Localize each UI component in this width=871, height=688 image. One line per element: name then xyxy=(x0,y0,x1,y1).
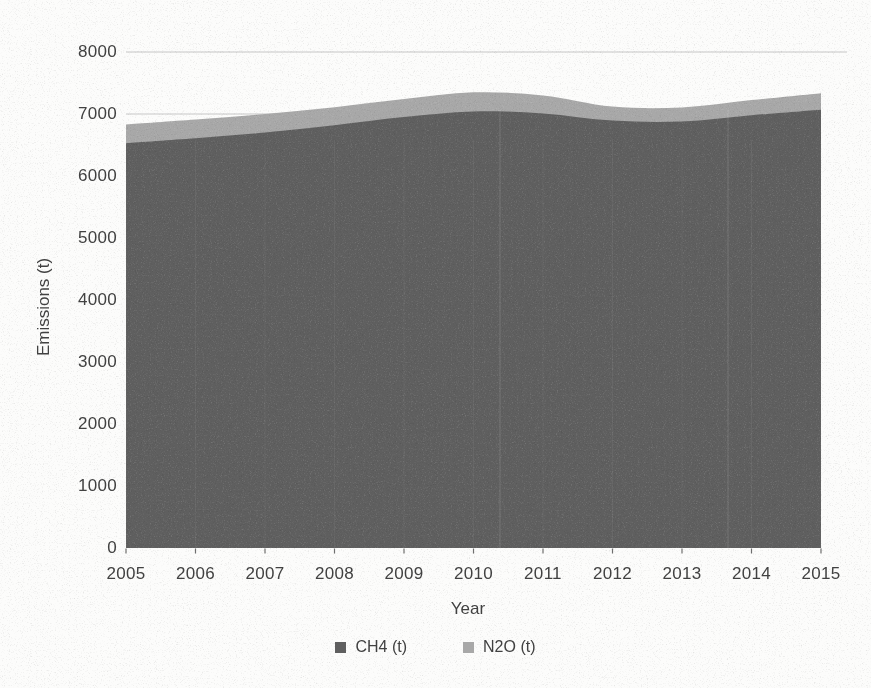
x-tick-label-2014: 2014 xyxy=(732,564,771,584)
x-tick-label-2012: 2012 xyxy=(593,564,632,584)
x-tick-label-2011: 2011 xyxy=(524,564,562,584)
legend-item-n2o: N2O (t) xyxy=(463,638,535,656)
x-tick-label-2008: 2008 xyxy=(315,564,354,584)
emissions-chart-figure: Emissions (t) 01000200030004000500060007… xyxy=(0,0,871,688)
x-tick-label-2005: 2005 xyxy=(106,564,145,584)
x-tick-label-2007: 2007 xyxy=(245,564,284,584)
legend: CH4 (t) N2O (t) xyxy=(0,638,871,656)
n2o-legend-swatch-icon xyxy=(463,642,474,653)
x-tick-label-2013: 2013 xyxy=(662,564,701,584)
x-tick-label-2015: 2015 xyxy=(801,564,840,584)
x-tick-label-2006: 2006 xyxy=(176,564,215,584)
x-axis-title: Year xyxy=(451,599,485,619)
x-axis: 2005200620072008200920102011201220132014… xyxy=(0,0,871,688)
x-tick-label-2010: 2010 xyxy=(454,564,493,584)
x-tick-label-2009: 2009 xyxy=(384,564,423,584)
ch4-legend-swatch-icon xyxy=(335,642,346,653)
legend-label-ch4: CH4 (t) xyxy=(355,638,407,656)
legend-item-ch4: CH4 (t) xyxy=(335,638,407,656)
legend-label-n2o: N2O (t) xyxy=(483,638,535,656)
